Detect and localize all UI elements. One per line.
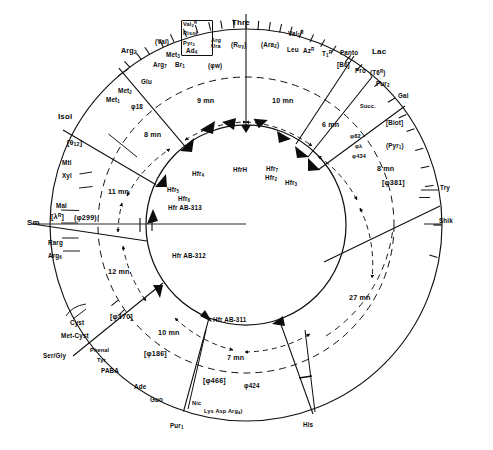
gene-label-shik: Shik	[439, 218, 453, 225]
gene-label-ara2: (Ara2)	[261, 42, 279, 50]
hfr-origin-arrowheads	[147, 117, 320, 326]
gene-label-tyr: Tyr	[97, 358, 106, 364]
gene-label-rarg: Rarg	[48, 240, 63, 247]
gene-label-pur2: Pur2	[376, 81, 390, 89]
gene-label-val1r: Val1R	[288, 31, 304, 39]
gene-label-phenal: Phenal	[90, 348, 109, 354]
gene-label-try: Try	[440, 185, 450, 192]
time-label-12mn: 12 mn	[108, 268, 130, 276]
hfr-label-hfr4: Hfr4	[192, 171, 204, 179]
time-label-6mn: 6 mn	[322, 121, 339, 129]
hfr-label-hfrAB311: Hfr AB-311	[213, 317, 246, 324]
gene-label-sm: Sm	[27, 219, 40, 227]
gene-label-theta12: [θ12]	[67, 139, 82, 148]
time-label-10mn-bottom: 10 mn	[158, 329, 180, 337]
his-marker-stem	[299, 330, 315, 412]
gene-label-met2: Met2	[118, 88, 132, 96]
gene-label-t1r: T1R	[322, 51, 332, 59]
hfr-label-hfr7: Hfr7	[266, 166, 278, 174]
hfr-label-hfr2: Hfr2	[265, 175, 277, 183]
gene-label-val: (Val)	[155, 39, 169, 46]
pur1-marker-stem	[188, 330, 206, 409]
hfr-label-hfr6: Hfr6	[178, 196, 190, 204]
gene-label-lambda-r: [λR]	[51, 213, 64, 221]
gene-label-mal: Mal	[56, 203, 67, 210]
gene-label-phiw: (φw)	[208, 63, 222, 70]
gene-label-arg6: Arg6	[48, 253, 62, 261]
boxed-label-val2r: Val2R	[183, 21, 197, 28]
gene-label-ade: Ade	[134, 384, 146, 391]
gene-label-xyl: Xyl	[62, 173, 72, 180]
gene-label-paba: PABA	[101, 368, 119, 375]
time-label-9mn: 9 mn	[197, 97, 214, 105]
gene-label-arg7: Arg7	[153, 62, 167, 70]
gene-label-mtl: Mtl	[62, 160, 72, 167]
gene-label-pyr1: (Pyr1)	[386, 143, 404, 151]
gene-label-azr: AzR	[303, 48, 314, 55]
time-label-10mn-top: 10 mn	[272, 97, 294, 105]
gene-label-t6r: (T6R)	[370, 70, 386, 77]
gene-label-phi299: (φ299)	[74, 214, 97, 222]
gene-label-arg2: Arg2	[121, 47, 137, 56]
time-label-7mn: 7 mn	[227, 354, 244, 362]
figure-canvas: Arg2 Met3 Ad4 Arg7 Br1 (Val) (φw) Val2R …	[0, 0, 493, 450]
gene-label-nic: Nic	[192, 401, 201, 407]
gene-label-b6: [B6]	[337, 62, 350, 69]
gene-label-br1: Br1	[175, 62, 185, 70]
gene-label-thre: Thre	[232, 19, 250, 27]
gene-label-lac: Lac	[372, 48, 386, 56]
gene-label-phi434: φ434	[352, 154, 366, 160]
boxed-label-risol: Risol	[183, 31, 197, 37]
gene-label-phi82: φ82	[350, 134, 361, 140]
inner-hfr-circle	[146, 125, 346, 325]
gene-label-phi18: φ18	[131, 104, 143, 111]
gene-label-phi186: [φ186]	[144, 350, 167, 358]
gene-label-phi-lambda: φλ	[355, 144, 362, 150]
gene-label-isol: Isol	[58, 113, 72, 121]
boxed-label-pyr2: Pyr2	[183, 41, 195, 47]
gene-label-met-cyst: Met-Cyst	[61, 333, 89, 340]
gene-label-cyst: Cyst	[70, 320, 84, 327]
gene-label-rtry: (Rtry)	[231, 42, 246, 50]
gene-label-his: His	[303, 422, 313, 429]
gene-label-guo: Guo	[150, 397, 163, 404]
time-label-8mn-left: 8 mn	[144, 131, 161, 139]
gene-label-phi466: [φ466]	[203, 377, 226, 385]
gene-label-phi381: [φ381]	[382, 179, 405, 187]
gene-label-pro: Pro	[355, 68, 366, 75]
gene-label-leu: Leu	[287, 47, 299, 54]
time-label-11mn: 11 mn	[108, 188, 129, 196]
gene-label-arg-ura: Arg Ura	[211, 38, 221, 49]
gene-label-panto: Panto	[340, 50, 358, 57]
gene-label-met1: Met1	[106, 97, 120, 105]
gene-label-phi370: [φ370]	[110, 313, 133, 321]
gene-label-succ: Succ.	[360, 104, 376, 110]
hfr-label-hfrAB313: Hfr AB-313	[168, 205, 202, 212]
hfr-label-hfr5: Hfr5	[167, 187, 179, 195]
hfr-label-hfrAB312: Hfr AB-312	[172, 253, 206, 260]
gene-label-ser-gly: Ser/Gly	[43, 353, 66, 360]
gene-label-gal: Gal	[398, 93, 409, 100]
gene-label-phi424: φ424	[244, 383, 260, 390]
gene-label-biot: [Biot]	[386, 120, 403, 127]
hfr-label-hfrH: HfrH	[233, 167, 247, 174]
gene-label-pur1: Pur1	[170, 423, 184, 431]
hfr-label-hfr3: Hfr3	[285, 180, 297, 188]
time-label-8mn-right: 8 mn	[377, 165, 394, 173]
time-label-27mn: 27 mn	[349, 294, 371, 302]
gene-label-met3: Met3	[166, 52, 180, 60]
gene-label-glu: Glu	[141, 79, 152, 86]
gene-label-lys-asp-arg4: Lys Asp Arg4)	[204, 409, 242, 415]
